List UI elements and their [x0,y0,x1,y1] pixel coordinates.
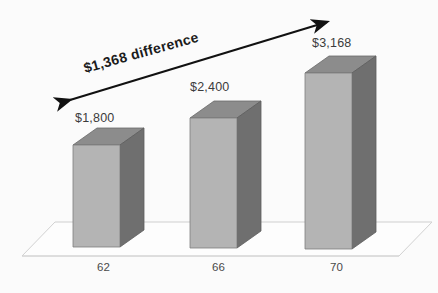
bar-side-face-62 [120,128,144,247]
bar-column-62 [73,128,144,247]
chart-canvas [0,0,438,293]
chart-container: $1,368 difference $1,800 $2,400 $3,168 6… [0,0,438,293]
bar-front-face-66 [190,118,237,248]
difference-arrow [70,22,327,100]
bar-front-face-62 [73,145,120,247]
bar-front-face-70 [305,73,352,249]
bar-side-face-66 [237,101,261,248]
difference-arrow-line [70,22,327,100]
bar-column-66 [190,101,261,248]
bar-column-70 [305,56,376,249]
bar-side-face-70 [352,56,376,249]
